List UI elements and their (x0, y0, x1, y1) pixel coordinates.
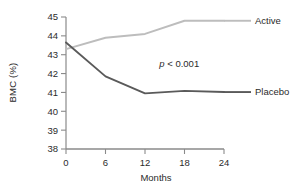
x-axis-title-wrap: Months (0, 172, 290, 183)
p-comparison: < 0.001 (165, 58, 200, 69)
y-tick-label: 44 (47, 30, 58, 41)
series-label-active: Active (255, 15, 281, 26)
series-label-group: ActivePlacebo (224, 15, 289, 97)
y-tick-label: 38 (47, 143, 58, 154)
y-tick-label: 42 (47, 68, 58, 79)
y-tick-label: 39 (47, 125, 58, 136)
y-tick-label: 43 (47, 49, 58, 60)
x-axis-ticks: 06121824 (63, 149, 229, 168)
x-axis-title: Months (140, 172, 171, 183)
chart-container: BMC (%) 3839404142434445 06121824 Active… (0, 0, 290, 194)
y-tick-label: 40 (47, 106, 58, 117)
y-axis-ticks: 3839404142434445 (47, 11, 66, 154)
x-tick-label: 6 (103, 157, 108, 168)
p-value-annotation: p < 0.001 (158, 58, 199, 69)
x-tick-label: 24 (219, 157, 230, 168)
chart-plot-area: 3839404142434445 06121824 ActivePlacebo … (0, 0, 290, 194)
x-tick-label: 18 (179, 157, 190, 168)
series-line-placebo (66, 42, 224, 93)
x-tick-label: 0 (63, 157, 68, 168)
x-tick-label: 12 (140, 157, 151, 168)
y-tick-label: 45 (47, 11, 58, 22)
y-tick-label: 41 (47, 87, 58, 98)
series-line-active (66, 21, 224, 49)
data-series-group (66, 21, 224, 94)
series-label-placebo: Placebo (255, 86, 289, 97)
